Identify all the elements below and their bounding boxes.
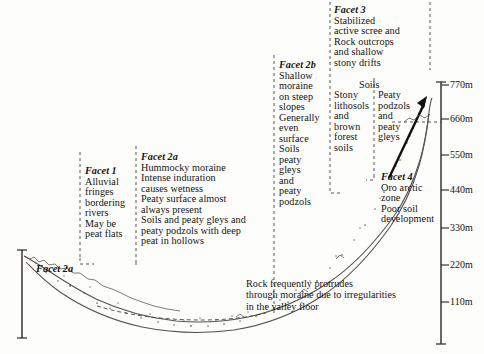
facet-2b-line-12: podzols bbox=[279, 197, 329, 208]
facet-3-line-3: and shallow bbox=[334, 47, 430, 58]
soils-right-line-2: and bbox=[378, 111, 420, 122]
caption-line-1: through moraine due to irregularities bbox=[246, 289, 436, 300]
facet-2a-line-1: Intense induration bbox=[141, 173, 276, 184]
valley-floor-caption: Rock frequently protrudes through morain… bbox=[246, 278, 436, 312]
facet-3-line-4: stony drifts bbox=[334, 58, 430, 69]
soils-left-line-2: and bbox=[334, 111, 374, 122]
facet-1-label: Facet 1 Alluvial fringes bordering river… bbox=[85, 166, 135, 240]
facet-3-soils-left: Stony lithosols and brown forest soils bbox=[334, 90, 374, 153]
facet-2a-line-3: Peaty surface almost bbox=[141, 194, 276, 205]
facet-2b-line-11: peaty bbox=[279, 186, 329, 197]
axis-tick-440: 440m bbox=[450, 184, 473, 195]
facet-2b-line-3: slopes bbox=[279, 102, 329, 113]
caption-line-2: in the valley floor bbox=[246, 301, 436, 312]
axis-tick-220: 220m bbox=[450, 259, 473, 270]
facet-1-line-3: rivers bbox=[85, 208, 135, 219]
facet-3-label: Facet 3 Stabilized active scree and Rock… bbox=[334, 5, 430, 68]
facet-3-title: Facet 3 bbox=[334, 5, 430, 16]
facet-2a-inline-label: Facet 2a bbox=[36, 263, 73, 274]
soils-right-line-4: gleys bbox=[378, 132, 420, 143]
facet-2b-line-9: gleys bbox=[279, 165, 329, 176]
facet-1-line-1: fringes bbox=[85, 187, 135, 198]
facet-4-label: Facet 4 Oro arctic zone Poor soil develo… bbox=[381, 172, 443, 225]
facet-2a-line-7: peat in hollows bbox=[141, 236, 276, 247]
facet-2b-line-1: moraine bbox=[279, 81, 329, 92]
facet-1-line-5: peat flats bbox=[85, 229, 135, 240]
caption-line-0: Rock frequently protrudes bbox=[246, 278, 436, 289]
facet-4-line-1: zone bbox=[381, 193, 443, 204]
facet-4-line-3: development bbox=[381, 214, 443, 225]
facet-2b-title: Facet 2b bbox=[279, 60, 329, 71]
facet-3-soils-right: Peaty podzols and peaty gleys bbox=[378, 90, 420, 143]
left-scale-bar bbox=[17, 250, 27, 338]
facet-3-line-1: active scree and bbox=[334, 26, 430, 37]
facet-2b-label: Facet 2b Shallow moraine on steep slopes… bbox=[279, 60, 329, 207]
valley-facet-diagram: Facet 1 Alluvial fringes bordering river… bbox=[0, 0, 484, 354]
soils-left-line-0: Stony bbox=[334, 90, 374, 101]
axis-tick-330: 330m bbox=[450, 222, 473, 233]
soils-left-line-4: forest bbox=[334, 132, 374, 143]
facet-2b-line-5: even bbox=[279, 123, 329, 134]
axis-tick-770: 770m bbox=[450, 79, 473, 90]
facet-2a-label: Facet 2a Hummocky moraine Intense indura… bbox=[141, 152, 276, 247]
facet-3-soils-header: Soils bbox=[359, 79, 379, 90]
facet-1-title: Facet 1 bbox=[85, 166, 135, 177]
soils-right-line-0: Peaty bbox=[378, 90, 420, 101]
facet-2a-line-5: Soils and peaty gleys and bbox=[141, 215, 276, 226]
facet-2b-line-7: Soils bbox=[279, 144, 329, 155]
axis-tick-110: 110m bbox=[450, 296, 472, 307]
facet-2a-title: Facet 2a bbox=[141, 152, 276, 163]
axis-tick-550: 550m bbox=[450, 149, 473, 160]
axis-tick-660: 660m bbox=[450, 113, 473, 124]
soils-left-line-5: soils bbox=[334, 143, 374, 154]
facet-4-title: Facet 4 bbox=[381, 172, 443, 183]
